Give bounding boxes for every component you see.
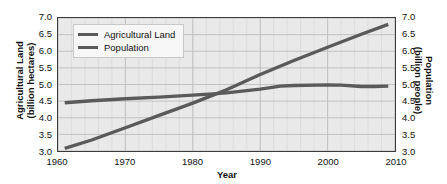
x-tick-1980: 1980 bbox=[173, 156, 213, 167]
y-tick-right-4.5: 4.5 bbox=[402, 95, 426, 106]
y-tick-right-6.0: 6.0 bbox=[402, 45, 426, 56]
y-tick-left-4.0: 4.0 bbox=[28, 112, 52, 123]
legend-swatch-population bbox=[78, 46, 98, 49]
chart-legend: Agricultural Land Population bbox=[73, 24, 184, 58]
y-tick-right-5.5: 5.5 bbox=[402, 62, 426, 73]
y-tick-left-3.5: 3.5 bbox=[28, 129, 52, 140]
y-tick-right-5.0: 5.0 bbox=[402, 79, 426, 90]
y-tick-left-6.0: 6.0 bbox=[28, 45, 52, 56]
x-tick-2010: 2010 bbox=[376, 156, 416, 167]
legend-label-agricultural-land: Agricultural Land bbox=[104, 29, 175, 40]
y-tick-right-3.5: 3.5 bbox=[402, 129, 426, 140]
y-tick-left-4.5: 4.5 bbox=[28, 95, 52, 106]
y-axis-left-title-line1: Agricultural Land bbox=[15, 10, 26, 152]
y-tick-left-5.5: 5.5 bbox=[28, 62, 52, 73]
y-tick-left-7.0: 7.0 bbox=[28, 11, 52, 22]
y-tick-left-5.0: 5.0 bbox=[28, 79, 52, 90]
legend-label-population: Population bbox=[104, 42, 149, 53]
series-line-agricultural-land bbox=[65, 85, 389, 103]
legend-swatch-agricultural-land bbox=[78, 33, 98, 36]
x-tick-2000: 2000 bbox=[308, 156, 348, 167]
legend-item-agricultural-land: Agricultural Land bbox=[78, 28, 175, 41]
y-tick-left-6.5: 6.5 bbox=[28, 28, 52, 39]
y-tick-right-7.0: 7.0 bbox=[402, 11, 426, 22]
x-axis-title: Year bbox=[57, 170, 397, 181]
chart-figure: Agricultural Land (billion hectares) Pop… bbox=[0, 0, 447, 184]
x-tick-1970: 1970 bbox=[105, 156, 145, 167]
y-tick-right-6.5: 6.5 bbox=[402, 28, 426, 39]
x-tick-1990: 1990 bbox=[240, 156, 280, 167]
legend-item-population: Population bbox=[78, 41, 175, 54]
x-tick-1960: 1960 bbox=[37, 156, 77, 167]
y-tick-right-4.0: 4.0 bbox=[402, 112, 426, 123]
